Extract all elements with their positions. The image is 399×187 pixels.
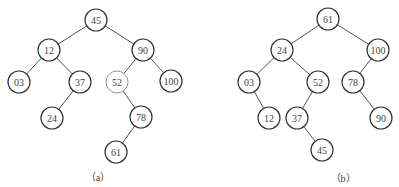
tree-node-78: 78 bbox=[130, 106, 152, 128]
edge-45-90 bbox=[105, 26, 133, 44]
caption-b: （b） bbox=[331, 173, 356, 184]
edge-61-100 bbox=[337, 25, 368, 44]
edge-12-37 bbox=[57, 58, 73, 74]
edge-61-24 bbox=[291, 25, 319, 44]
tree-node-100: 100 bbox=[367, 39, 389, 61]
edge-78-90 bbox=[360, 91, 374, 110]
tree-node-03: 03 bbox=[238, 71, 260, 93]
edge-90-100 bbox=[150, 58, 163, 73]
caption-a: （a） bbox=[86, 172, 110, 183]
tree-node-24: 24 bbox=[41, 107, 63, 129]
tree-node-12: 12 bbox=[258, 107, 280, 129]
node-label: 100 bbox=[371, 45, 386, 56]
edge-52-78 bbox=[123, 91, 135, 108]
node-label: 12 bbox=[264, 113, 274, 124]
node-label: 61 bbox=[323, 14, 333, 25]
tree-node-52: 52 bbox=[106, 71, 128, 93]
tree-node-37: 37 bbox=[286, 107, 308, 129]
tree-node-52: 52 bbox=[307, 71, 329, 93]
node-label: 61 bbox=[111, 147, 121, 158]
edge-100-78 bbox=[360, 59, 371, 74]
edge-03-12 bbox=[254, 92, 263, 109]
tree-node-61: 61 bbox=[105, 141, 127, 163]
tree-b-nodes: 612410003527812379045 bbox=[238, 8, 392, 161]
node-label: 100 bbox=[164, 76, 179, 87]
edge-37-24 bbox=[59, 91, 73, 110]
tree-a: 451290033752100247861 （a） bbox=[8, 9, 182, 183]
tree-node-24: 24 bbox=[271, 39, 293, 61]
node-label: 24 bbox=[277, 45, 287, 56]
node-label: 37 bbox=[292, 113, 302, 124]
binary-tree-diagram: 451290033752100247861 （a） 61241000352781… bbox=[0, 0, 399, 187]
node-label: 78 bbox=[136, 112, 146, 123]
edge-37-45 bbox=[304, 127, 315, 142]
tree-node-100: 100 bbox=[160, 70, 182, 92]
node-label: 90 bbox=[138, 45, 148, 56]
node-label: 90 bbox=[376, 113, 386, 124]
edge-24-52 bbox=[290, 57, 310, 74]
node-label: 12 bbox=[44, 45, 54, 56]
node-label: 52 bbox=[313, 77, 323, 88]
tree-node-03: 03 bbox=[8, 71, 30, 93]
tree-node-45: 45 bbox=[311, 139, 333, 161]
edge-52-37 bbox=[303, 92, 313, 109]
tree-node-78: 78 bbox=[342, 71, 364, 93]
tree-node-12: 12 bbox=[38, 39, 60, 61]
node-label: 45 bbox=[91, 15, 101, 26]
tree-node-90: 90 bbox=[132, 39, 154, 61]
tree-node-37: 37 bbox=[69, 71, 91, 93]
edge-78-61 bbox=[122, 126, 134, 143]
edge-24-03 bbox=[257, 58, 274, 75]
node-label: 52 bbox=[112, 77, 122, 88]
tree-node-90: 90 bbox=[370, 107, 392, 129]
edge-90-52 bbox=[124, 59, 136, 74]
node-label: 37 bbox=[75, 77, 85, 88]
edge-12-03 bbox=[27, 58, 42, 74]
tree-node-61: 61 bbox=[317, 8, 339, 30]
node-label: 78 bbox=[348, 77, 358, 88]
tree-a-nodes: 451290033752100247861 bbox=[8, 9, 182, 163]
node-label: 03 bbox=[14, 77, 24, 88]
tree-node-45: 45 bbox=[85, 9, 107, 31]
node-label: 03 bbox=[244, 77, 254, 88]
tree-b: 612410003527812379045 （b） bbox=[238, 8, 392, 184]
node-label: 45 bbox=[317, 145, 327, 156]
edge-45-12 bbox=[58, 26, 86, 44]
node-label: 24 bbox=[47, 113, 57, 124]
